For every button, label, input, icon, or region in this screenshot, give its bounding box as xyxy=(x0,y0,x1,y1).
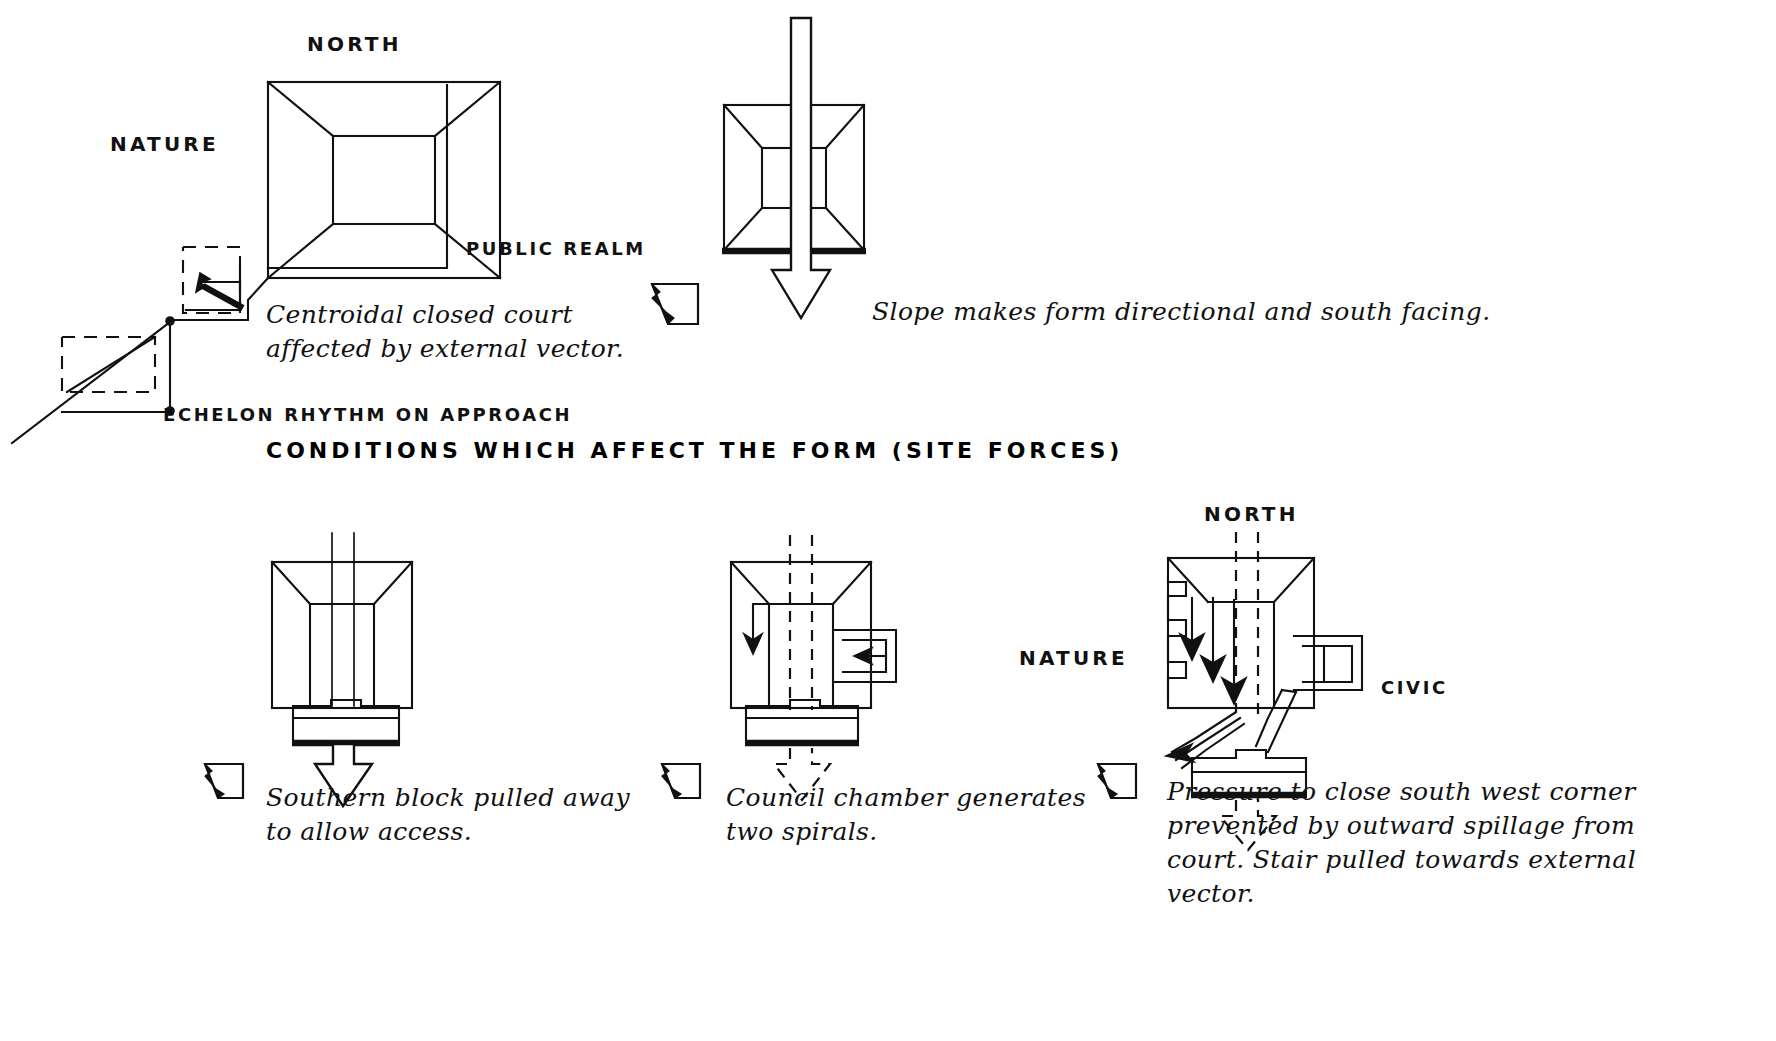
panel-3-caption-line-1: Southern block pulled away xyxy=(266,783,630,812)
panel-1-public-realm-label: PUBLIC REALM xyxy=(466,238,646,259)
panel-5-caption-line-4: vector. xyxy=(1167,879,1255,908)
panel-1-caption-line-2: affected by external vector. xyxy=(266,334,624,363)
panel-2-caption-line-1: Slope makes form directional and south f… xyxy=(872,297,1491,326)
panel-5-civic-label: CIVIC xyxy=(1381,677,1448,698)
panel-1-echelon-label: ECHELON RHYTHM ON APPROACH xyxy=(163,404,572,425)
panel-1-nature-label: NATURE xyxy=(110,132,219,156)
panel-5-nature-label: NATURE xyxy=(1019,646,1128,670)
panel-4-caption-line-1: Council chamber generates xyxy=(726,783,1086,812)
panel-5-caption-line-3: court. Stair pulled towards external xyxy=(1167,845,1636,874)
panel-3-caption-line-2: to allow access. xyxy=(266,817,472,846)
sheet-title: CONDITIONS WHICH AFFECT THE FORM (SITE F… xyxy=(266,438,1123,463)
panel-1-north-label: NORTH xyxy=(307,32,402,56)
panel-5-caption-line-1: Pressure to close south west corner xyxy=(1166,777,1637,806)
panel-5-caption-line-2: prevented by outward spillage from xyxy=(1167,811,1635,840)
diagram-sheet: NORTH NATURE PUBLIC REALM ECHELON RHYTHM… xyxy=(0,0,1776,1041)
panel-5-north-label: NORTH xyxy=(1204,502,1299,526)
panel-1-caption-line-1: Centroidal closed court xyxy=(266,300,573,329)
panel-4-caption-line-2: two spirals. xyxy=(726,817,878,846)
text-layer: NORTH NATURE PUBLIC REALM ECHELON RHYTHM… xyxy=(0,0,1776,1041)
